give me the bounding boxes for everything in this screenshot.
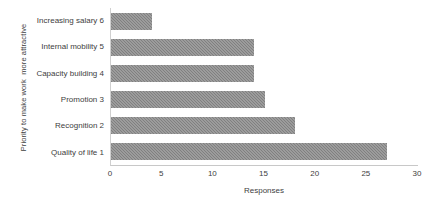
bar: [111, 65, 254, 82]
category-label: Increasing salary 6: [20, 16, 108, 26]
x-axis-ticks: 051015202530: [110, 168, 418, 182]
plot-area: [110, 8, 418, 166]
bar-row: [111, 13, 418, 30]
bar-chart: Priority to make work more attractive In…: [0, 0, 445, 211]
bar: [111, 143, 387, 160]
category-axis: Increasing salary 6 Internal mobility 5 …: [20, 8, 108, 166]
category-label: Capacity building 4: [20, 69, 108, 79]
x-tick-label: 10: [208, 168, 217, 180]
category-label: Recognition 2: [20, 121, 108, 131]
bar: [111, 39, 254, 56]
category-label: Quality of life 1: [20, 148, 108, 158]
x-tick-label: 25: [361, 168, 370, 180]
bar: [111, 91, 265, 108]
category-label: Internal mobility 5: [20, 42, 108, 52]
bar-row: [111, 39, 418, 56]
x-tick-label: 15: [259, 168, 268, 180]
bar: [111, 117, 295, 134]
x-axis-title: Responses: [110, 186, 418, 195]
bar-row: [111, 91, 418, 108]
x-tick-label: 30: [413, 168, 422, 180]
bar: [111, 13, 152, 30]
x-tick-label: 20: [310, 168, 319, 180]
x-tick-label: 5: [159, 168, 163, 180]
bar-row: [111, 65, 418, 82]
bar-row: [111, 143, 418, 160]
category-label: Promotion 3: [20, 95, 108, 105]
bar-row: [111, 117, 418, 134]
x-tick-label: 0: [108, 168, 112, 180]
bar-series: [111, 8, 418, 165]
